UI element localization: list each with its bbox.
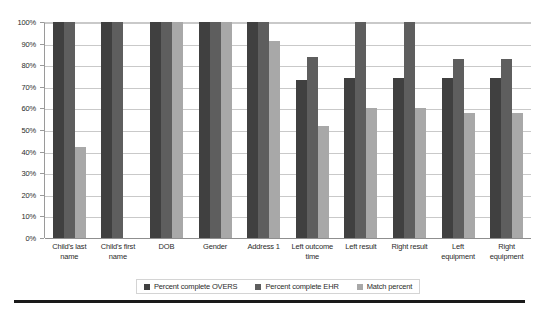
bar-group — [239, 22, 288, 238]
bar — [464, 113, 475, 238]
legend-item[interactable]: Match percent — [357, 282, 413, 291]
bar — [64, 22, 75, 238]
bar — [296, 80, 307, 238]
bar — [453, 59, 464, 238]
bar — [221, 22, 232, 238]
bar — [172, 22, 183, 238]
legend-swatch-icon — [255, 284, 261, 290]
y-axis-tick-label: 50% — [22, 126, 36, 135]
bar — [112, 22, 123, 238]
y-axis-tick-label: 60% — [22, 104, 36, 113]
bar — [161, 22, 172, 238]
bar — [210, 22, 221, 238]
legend-item[interactable]: Percent complete EHR — [255, 282, 338, 291]
bar — [307, 57, 318, 238]
bar-group — [337, 22, 386, 238]
legend-label: Percent complete OVERS — [154, 282, 237, 291]
bar — [442, 78, 453, 238]
bar — [393, 78, 404, 238]
bar-group — [191, 22, 240, 238]
x-axis-category-label: Child's last name — [45, 242, 94, 261]
chart-legend: Percent complete OVERSPercent complete E… — [136, 279, 420, 294]
y-axis: 100%90%80%70%60%50%40%30%20%10%0% — [0, 22, 40, 238]
bar — [101, 22, 112, 238]
x-axis-category-label: Left outcome time — [288, 242, 337, 261]
x-axis-category-label: Child's first name — [94, 242, 143, 261]
bar-group — [94, 22, 143, 238]
y-axis-tick-label: 70% — [22, 82, 36, 91]
legend-swatch-icon — [357, 284, 363, 290]
bar — [247, 22, 258, 238]
chart-screenshot: 100%90%80%70%60%50%40%30%20%10%0% Child'… — [0, 0, 539, 312]
y-axis-tick-label: 40% — [22, 147, 36, 156]
y-axis-tick-label: 90% — [22, 39, 36, 48]
bar — [512, 113, 523, 238]
legend-swatch-icon — [144, 284, 150, 290]
bar — [415, 108, 426, 238]
bar — [199, 22, 210, 238]
bar-group — [434, 22, 483, 238]
x-axis-category-label: Gender — [191, 242, 240, 261]
y-axis-tick-mark — [40, 238, 44, 239]
x-axis-category-label: Left result — [337, 242, 386, 261]
x-axis-category-label: Address 1 — [239, 242, 288, 261]
bar — [75, 147, 86, 238]
x-axis-category-label: Left equipment — [434, 242, 483, 261]
y-axis-tick-label: 30% — [22, 169, 36, 178]
y-axis-tick-label: 100% — [18, 18, 36, 27]
bar — [355, 22, 366, 238]
footer-rule — [14, 300, 525, 303]
bar-groups — [45, 22, 531, 238]
bar — [53, 22, 64, 238]
bar-group — [288, 22, 337, 238]
bar — [344, 78, 355, 238]
bar — [150, 22, 161, 238]
x-axis-category-label: Right equipment — [482, 242, 531, 261]
x-axis-category-label: Right result — [385, 242, 434, 261]
bar — [366, 108, 377, 238]
bar-group — [482, 22, 531, 238]
y-axis-tick-label: 10% — [22, 212, 36, 221]
bar-group — [45, 22, 94, 238]
x-axis-labels: Child's last nameChild's first nameDOBGe… — [45, 242, 531, 261]
x-axis-category-label: DOB — [142, 242, 191, 261]
y-axis-tick-label: 20% — [22, 190, 36, 199]
bar — [404, 22, 415, 238]
bar — [490, 78, 501, 238]
legend-label: Match percent — [367, 282, 413, 291]
y-axis-tick-label: 0% — [26, 234, 36, 243]
bar — [258, 22, 269, 238]
y-axis-tick-label: 80% — [22, 61, 36, 70]
x-axis-line — [45, 238, 531, 239]
bar — [501, 59, 512, 238]
bar — [318, 126, 329, 238]
bar-group — [385, 22, 434, 238]
bar — [269, 41, 280, 238]
legend-label: Percent complete EHR — [265, 282, 338, 291]
bar-group — [142, 22, 191, 238]
legend-item[interactable]: Percent complete OVERS — [144, 282, 237, 291]
